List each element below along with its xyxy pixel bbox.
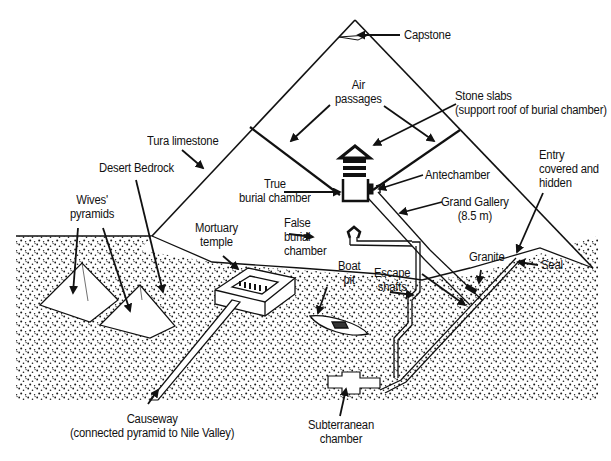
label-capstone: Capstone [404, 28, 451, 42]
label-true-burial-chamber: True burial chamber [239, 177, 311, 205]
label-boat-pit: Boat pit [338, 259, 360, 287]
label-stone-slabs: Stone slabs (support roof of burial cham… [455, 89, 607, 117]
label-subterranean-chamber: Subterranean chamber [308, 418, 374, 446]
label-entry: Entry covered and hidden [539, 148, 599, 190]
label-wives-pyramids: Wives' pyramids [70, 193, 114, 221]
label-grand-gallery: Grand Gallery (8.5 m) [441, 195, 509, 223]
label-air-passages: Air passages [335, 78, 382, 106]
label-desert-bedrock: Desert Bedrock [99, 161, 174, 175]
label-granite: Granite [469, 250, 505, 264]
label-tura-limestone: Tura limestone [147, 134, 218, 148]
label-escape-shafts: Escape shafts [374, 266, 410, 294]
label-causeway: Causeway (connected pyramid to Nile Vall… [70, 412, 234, 440]
label-mortuary-temple: Mortuary temple [195, 221, 238, 249]
label-false-burial-chamber: False burial chamber [284, 216, 327, 258]
label-seal: Seal [541, 258, 563, 272]
label-antechamber: Antechamber [425, 168, 490, 182]
